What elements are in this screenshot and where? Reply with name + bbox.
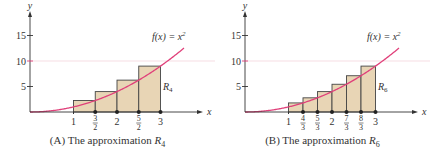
caption-text: (A) The approximation bbox=[50, 134, 155, 146]
x-axis-arrow-icon bbox=[412, 110, 418, 114]
svg-text:3: 3 bbox=[93, 114, 97, 123]
endpoint-dot bbox=[115, 110, 119, 114]
svg-text:3: 3 bbox=[345, 123, 349, 132]
riemann-rectangles bbox=[289, 66, 376, 112]
region-label: R6 bbox=[377, 81, 388, 94]
svg-text:2: 2 bbox=[93, 123, 97, 132]
svg-text:2: 2 bbox=[330, 116, 335, 127]
chart-r6: xy5101514353273833f(x) = x2R6 bbox=[215, 0, 430, 134]
rectangle bbox=[117, 80, 139, 112]
caption-text: (B) The approximation bbox=[265, 134, 369, 146]
svg-text:3: 3 bbox=[316, 123, 320, 132]
svg-text:x: x bbox=[421, 106, 427, 117]
svg-text:y: y bbox=[242, 0, 248, 11]
caption-r6: (B) The approximation R6 bbox=[215, 134, 430, 149]
svg-text:x: x bbox=[206, 106, 212, 117]
svg-text:3: 3 bbox=[301, 123, 305, 132]
svg-text:3: 3 bbox=[373, 116, 378, 127]
svg-text:5: 5 bbox=[21, 81, 26, 92]
rectangle bbox=[346, 76, 360, 112]
svg-text:2: 2 bbox=[137, 123, 141, 132]
svg-text:5: 5 bbox=[316, 114, 320, 123]
panel-r6: xy5101514353273833f(x) = x2R6 (B) The ap… bbox=[215, 0, 430, 158]
riemann-rectangles bbox=[74, 66, 161, 112]
caption-sub: 4 bbox=[161, 140, 165, 149]
function-label: f(x) = x2 bbox=[367, 30, 401, 43]
endpoint-dot bbox=[374, 110, 378, 114]
svg-text:2: 2 bbox=[115, 116, 120, 127]
panel-r4: xy510151322523f(x) = x2R4 (A) The approx… bbox=[0, 0, 215, 158]
svg-text:5: 5 bbox=[236, 81, 241, 92]
x-axis-arrow-icon bbox=[197, 110, 203, 114]
caption-r4: (A) The approximation R4 bbox=[0, 134, 215, 149]
rectangle bbox=[289, 103, 303, 112]
region-label: R4 bbox=[162, 81, 173, 94]
svg-text:10: 10 bbox=[16, 56, 26, 67]
rectangle bbox=[361, 66, 375, 112]
svg-text:7: 7 bbox=[345, 114, 349, 123]
endpoint-dot bbox=[159, 110, 163, 114]
svg-text:3: 3 bbox=[359, 123, 363, 132]
function-label: f(x) = x2 bbox=[152, 30, 186, 43]
rectangle bbox=[95, 92, 117, 112]
svg-text:1: 1 bbox=[71, 116, 76, 127]
svg-text:15: 15 bbox=[16, 30, 26, 41]
caption-sub: 6 bbox=[376, 140, 380, 149]
caption-var: R bbox=[369, 134, 376, 146]
chart-r4: xy510151322523f(x) = x2R4 bbox=[0, 0, 215, 134]
svg-text:15: 15 bbox=[231, 30, 241, 41]
svg-text:8: 8 bbox=[359, 114, 363, 123]
y-axis-arrow-icon bbox=[28, 11, 32, 17]
svg-text:10: 10 bbox=[231, 56, 241, 67]
y-axis-arrow-icon bbox=[243, 11, 247, 17]
endpoint-dot bbox=[330, 110, 334, 114]
svg-text:1: 1 bbox=[286, 116, 291, 127]
svg-text:y: y bbox=[27, 0, 33, 11]
svg-text:3: 3 bbox=[158, 116, 163, 127]
svg-text:5: 5 bbox=[137, 114, 141, 123]
svg-text:4: 4 bbox=[301, 114, 305, 123]
